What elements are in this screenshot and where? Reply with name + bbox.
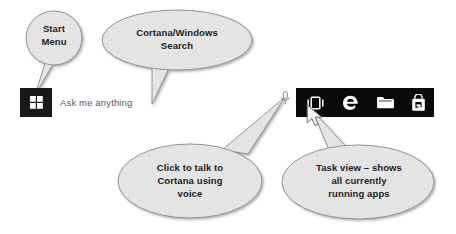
store-button[interactable] [401,88,435,117]
callout-task-view [282,110,434,219]
callout-start-menu [26,11,82,95]
search-input[interactable]: Ask me anything [60,97,132,108]
shopping-bag-icon [410,94,427,112]
edge-button[interactable] [333,88,367,117]
windows-logo-icon [30,96,43,109]
diagram-canvas: Start Menu Cortana/Windows Search Click … [0,0,456,234]
folder-icon [376,95,395,110]
edge-icon [341,93,360,112]
callout-artwork [0,0,456,234]
file-explorer-button[interactable] [368,88,402,117]
mouse-cursor-icon [306,104,326,130]
start-button[interactable] [20,88,52,117]
callout-cortana-search [102,10,252,104]
callout-cortana-voice [118,97,285,218]
microphone-icon[interactable] [281,92,289,105]
